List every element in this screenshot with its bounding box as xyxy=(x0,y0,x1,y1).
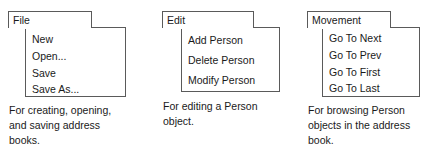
menu-item-go-to-last[interactable]: Go To Last xyxy=(329,82,380,95)
menu-group-movement: Go To Next Go To Prev Go To First Go To … xyxy=(300,0,428,154)
file-menu-caption: For creating, opening, and saving addres… xyxy=(9,103,111,148)
movement-caption-line-1: For browsing Person xyxy=(308,103,410,118)
file-menu-tab[interactable]: File xyxy=(8,11,92,28)
menu-item-save-as[interactable]: Save As... xyxy=(32,83,79,96)
file-menu-tab-label: File xyxy=(13,13,30,27)
movement-menu-tab-label: Movement xyxy=(312,13,361,27)
file-menu-dropdown-panel: New Open... Save Save As... xyxy=(25,27,126,97)
menu-item-go-to-first[interactable]: Go To First xyxy=(329,66,380,79)
file-caption-line-1: For creating, opening, xyxy=(9,103,111,118)
menu-group-edit: Add Person Delete Person Modify Person E… xyxy=(155,0,295,154)
file-caption-line-3: books. xyxy=(9,133,111,148)
movement-menu-dropdown-panel: Go To Next Go To Prev Go To First Go To … xyxy=(322,27,420,97)
menu-item-open[interactable]: Open... xyxy=(32,50,66,63)
edit-menu-tab[interactable]: Edit xyxy=(162,11,254,28)
menu-item-add-person[interactable]: Add Person xyxy=(188,34,243,47)
movement-menu-tab[interactable]: Movement xyxy=(307,11,391,28)
edit-menu-dropdown-panel: Add Person Delete Person Modify Person xyxy=(181,27,280,92)
edit-menu-tab-label: Edit xyxy=(167,13,185,27)
movement-caption-line-3: book. xyxy=(308,133,410,148)
file-caption-line-2: and saving address xyxy=(9,118,111,133)
movement-caption-line-2: objects in the address xyxy=(308,118,410,133)
menu-item-delete-person[interactable]: Delete Person xyxy=(188,54,255,67)
menu-item-go-to-next[interactable]: Go To Next xyxy=(329,32,381,45)
edit-menu-caption: For editing a Person object. xyxy=(163,99,258,129)
menu-item-save[interactable]: Save xyxy=(32,67,56,80)
edit-caption-line-1: For editing a Person xyxy=(163,99,258,114)
menu-group-file: New Open... Save Save As... File For cre… xyxy=(0,0,150,154)
menu-item-new[interactable]: New xyxy=(32,33,53,46)
menu-item-go-to-prev[interactable]: Go To Prev xyxy=(329,49,381,62)
menu-item-modify-person[interactable]: Modify Person xyxy=(188,74,255,87)
movement-menu-caption: For browsing Person objects in the addre… xyxy=(308,103,410,148)
edit-caption-line-2: object. xyxy=(163,114,258,129)
